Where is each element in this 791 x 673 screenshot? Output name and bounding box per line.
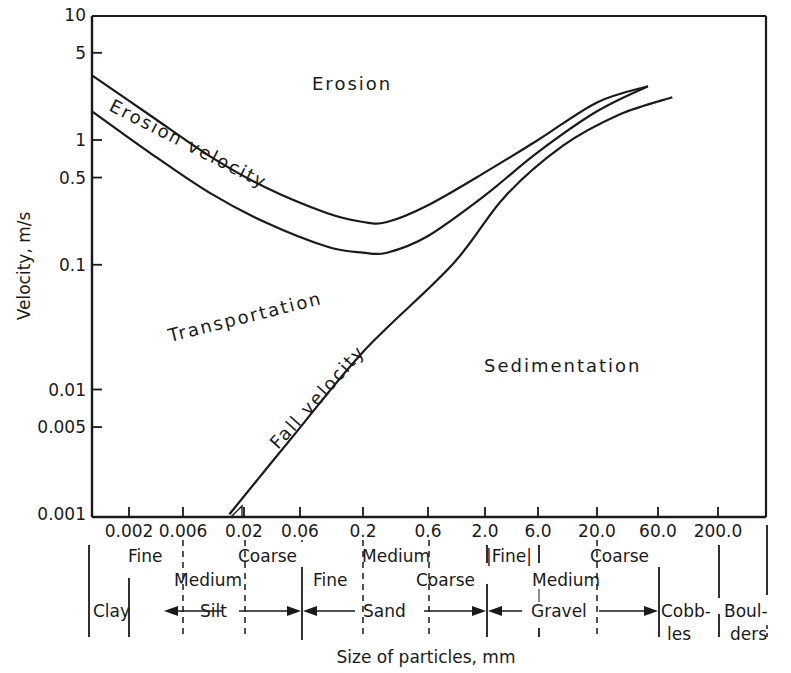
x-tick-label: 0.002 xyxy=(105,521,154,541)
size-class-label: Silt xyxy=(200,601,227,621)
size-class-label: Clay xyxy=(93,601,130,621)
size-class-label: Boul- xyxy=(724,601,768,621)
region-label: Erosion velocity xyxy=(106,95,271,193)
x-tick-label: 6.0 xyxy=(524,521,551,541)
erosion-velocity-upper-curve xyxy=(92,75,648,223)
size-subclass-label: Medium xyxy=(362,546,430,566)
y-tick-label: 10 xyxy=(64,5,86,25)
x-tick-label: 60.0 xyxy=(639,521,677,541)
y-tick-label: 1 xyxy=(75,130,86,150)
sediment-velocity-chart: 10510.50.10.010.0050.001 0.0020.0060.020… xyxy=(0,0,791,673)
y-tick-label: 0.1 xyxy=(59,255,86,275)
erosion-velocity-lower-curve xyxy=(92,86,648,254)
x-tick-label: 0.2 xyxy=(349,521,376,541)
y-tick-label: 0.005 xyxy=(37,417,86,437)
y-tick-label: 0.001 xyxy=(37,504,86,524)
region-label: Fall velocity xyxy=(265,341,369,453)
x-axis-title: Size of particles, mm xyxy=(337,647,516,667)
region-label: Erosion xyxy=(312,73,392,94)
size-class-label-line2: ders xyxy=(730,624,767,644)
size-subclass-label: Fine xyxy=(313,570,348,590)
x-tick-label: 0.6 xyxy=(414,521,441,541)
x-tick-label: 0.006 xyxy=(159,521,208,541)
arrow-left-icon xyxy=(488,606,502,616)
size-class-label: Gravel xyxy=(531,601,587,621)
size-class-label: Cobb- xyxy=(661,601,711,621)
x-tick-label: 0.06 xyxy=(281,521,319,541)
size-class-label: Sand xyxy=(363,601,406,621)
y-tick-label: 0.01 xyxy=(48,380,86,400)
y-tick-label: 0.5 xyxy=(59,168,86,188)
size-subclass-label: Coarse xyxy=(238,546,297,566)
particle-classification: FineCoarseMedium|Fine|CoarseMediumFineCo… xyxy=(89,525,768,644)
region-label: Sedimentation xyxy=(484,355,642,376)
size-subclass-label: Medium xyxy=(532,570,600,590)
region-label: Transportation xyxy=(165,287,324,346)
size-subclass-label: |Fine| xyxy=(486,546,532,566)
size-class-label-line2: les xyxy=(667,624,691,644)
region-labels: ErosionErosion velocityTransportationFal… xyxy=(106,73,641,453)
x-tick-label: 2.0 xyxy=(471,521,498,541)
x-tick-label: 200.0 xyxy=(694,521,743,541)
chart-canvas: 10510.50.10.010.0050.001 0.0020.0060.020… xyxy=(0,0,791,673)
class-labels: FineCoarseMedium|Fine|CoarseMediumFineCo… xyxy=(93,546,768,644)
size-subclass-label: Fine xyxy=(128,546,163,566)
x-tick-label: 20.0 xyxy=(578,521,616,541)
size-subclass-label: Coarse xyxy=(416,570,475,590)
size-subclass-label: Coarse xyxy=(590,546,649,566)
x-tick-label: 0.02 xyxy=(225,521,263,541)
plot-frame xyxy=(92,16,766,517)
y-axis-title: Velocity, m/s xyxy=(14,212,34,321)
size-subclass-label: Medium xyxy=(174,570,242,590)
arrow-left-icon xyxy=(164,606,178,616)
x-axis: 0.0020.0060.020.060.20.62.06.020.060.020… xyxy=(105,507,743,541)
arrow-right-icon xyxy=(472,606,486,616)
y-tick-label: 5 xyxy=(75,43,86,63)
arrow-right-icon xyxy=(644,606,658,616)
arrow-right-icon xyxy=(287,606,301,616)
